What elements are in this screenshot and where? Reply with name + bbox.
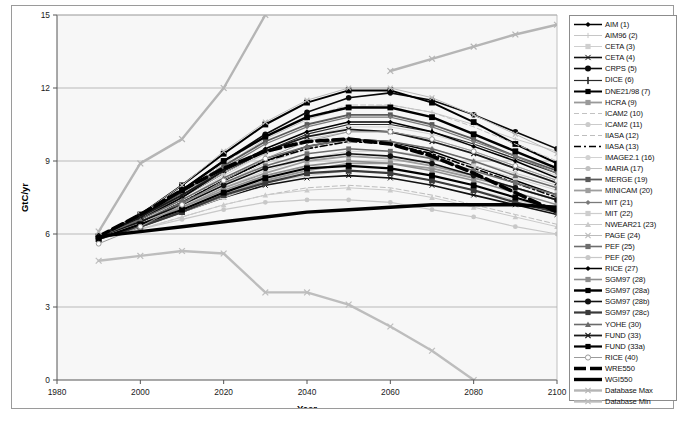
legend-swatch-mit-21 — [573, 197, 603, 208]
marker-square — [585, 244, 590, 249]
legend-label: WGI550 — [603, 374, 632, 385]
legend-item: SGM97 (28c) — [573, 307, 674, 318]
y-tick-label: 6 — [45, 229, 50, 239]
legend-item: FUND (33a) — [573, 341, 674, 352]
y-tick-label: 15 — [41, 10, 51, 20]
legend-label: CETA (4) — [603, 52, 635, 63]
legend-swatch-rice-27 — [573, 263, 603, 274]
chart-frame: 036912151980200020202040206020802100Year… — [11, 5, 674, 409]
marker-square — [346, 159, 351, 164]
legend-swatch-hcra-9 — [573, 97, 603, 108]
marker-square — [305, 151, 310, 156]
legend-swatch-sgm97-28a — [573, 285, 603, 296]
marker-diamond — [585, 22, 590, 27]
marker-circle — [305, 198, 310, 203]
y-tick-label: 0 — [45, 375, 50, 385]
marker-square — [262, 134, 268, 140]
legend-swatch-ceta-3 — [573, 41, 603, 52]
marker-circle-open — [263, 156, 268, 161]
legend-item: FUND (33) — [573, 330, 674, 341]
legend-swatch-icam2-11 — [573, 119, 603, 130]
legend-label: MIT (21) — [603, 197, 633, 208]
x-tick-label: 2000 — [131, 387, 150, 397]
marker-circle-open — [430, 137, 435, 142]
legend-swatch-maria-17 — [573, 163, 603, 174]
legend-label: SGM97 (28b) — [603, 296, 649, 307]
marker-hexagon — [346, 95, 352, 101]
marker-square — [585, 344, 590, 349]
figure: 036912151980200020202040206020802100Year… — [0, 0, 687, 424]
marker-square — [429, 173, 435, 179]
legend-label: MINICAM (20) — [603, 185, 652, 196]
legend-swatch-ceta-4 — [573, 52, 603, 63]
marker-circle — [388, 125, 393, 130]
marker-hexagon — [429, 161, 435, 167]
legend-item: YOHE (30) — [573, 319, 674, 330]
x-tick-label: 1980 — [48, 387, 67, 397]
legend-item: DNE21/98 (7) — [573, 86, 674, 97]
legend-item: IIASA (12) — [573, 130, 674, 141]
legend-swatch-minicam-20 — [573, 185, 603, 196]
legend-item: MARIA (17) — [573, 163, 674, 174]
legend-label: Database Max — [603, 385, 653, 396]
legend-swatch-database-min — [573, 396, 603, 407]
legend-item: ICAM2 (11) — [573, 119, 674, 130]
marker-circle — [180, 217, 185, 222]
y-tick-label: 12 — [41, 83, 51, 93]
legend-label: AIM96 (2) — [603, 30, 637, 41]
marker-square — [585, 100, 590, 105]
marker-square — [430, 168, 435, 173]
x-axis-title: Year — [297, 403, 317, 408]
legend-label: CETA (3) — [603, 41, 635, 52]
marker-asterisk — [585, 55, 590, 60]
legend-label: PAGE (24) — [603, 230, 640, 241]
marker-square — [429, 100, 435, 106]
legend-swatch-yohe-30 — [573, 319, 603, 330]
legend-swatch-wgi550 — [573, 374, 603, 385]
legend-label: DICE (6) — [603, 74, 634, 85]
marker-square — [512, 148, 518, 154]
legend-item: SGM97 (28b) — [573, 296, 674, 307]
legend-label: MIT (22) — [603, 208, 633, 219]
marker-square — [387, 165, 393, 171]
marker-hexagon — [388, 153, 394, 159]
legend-item: NWEAR21 (23) — [573, 219, 674, 230]
y-tick-label: 9 — [45, 156, 50, 166]
legend-swatch-dice-6 — [573, 75, 603, 86]
legend-item: HCRA (9) — [573, 97, 674, 108]
marker-circle — [263, 200, 268, 205]
marker-circle-open — [513, 163, 518, 168]
marker-square — [221, 158, 227, 164]
legend-item: PAGE (24) — [573, 230, 674, 241]
legend-item: DICE (6) — [573, 74, 674, 85]
legend-swatch-mit-22 — [573, 208, 603, 219]
legend-item: SGM97 (28) — [573, 274, 674, 285]
marker-square — [304, 114, 310, 120]
legend-item: AIM (1) — [573, 19, 674, 30]
marker-square — [346, 105, 352, 111]
marker-hexagon — [304, 156, 310, 162]
marker-square — [471, 182, 477, 188]
legend-swatch-fund-33 — [573, 330, 603, 341]
legend-label: PEF (26) — [603, 252, 635, 263]
marker-square — [585, 277, 590, 282]
marker-circle — [471, 215, 476, 220]
legend-label: RICE (40) — [603, 352, 638, 363]
legend-item: MINICAM (20) — [573, 185, 674, 196]
y-axis-title: GtC/yr — [19, 183, 30, 212]
legend-label: ICAM2 (11) — [603, 119, 642, 130]
legend-label: DNE21/98 (7) — [603, 86, 650, 97]
legend-item: Database Min — [573, 396, 674, 407]
legend-item: WRE550 — [573, 363, 674, 374]
legend-swatch-aim96-2 — [573, 30, 603, 41]
marker-circle — [585, 122, 590, 127]
legend-swatch-sgm97-28c — [573, 307, 603, 318]
marker-hexagon — [304, 110, 310, 116]
legend-label: RICE (27) — [603, 263, 638, 274]
legend-swatch-sgm97-28 — [573, 274, 603, 285]
legend-label: YOHE (30) — [603, 319, 641, 330]
legend-item: RICE (27) — [573, 263, 674, 274]
legend-label: FUND (33) — [603, 330, 641, 341]
marker-diamond — [585, 266, 590, 271]
marker-hexagon — [585, 299, 591, 305]
